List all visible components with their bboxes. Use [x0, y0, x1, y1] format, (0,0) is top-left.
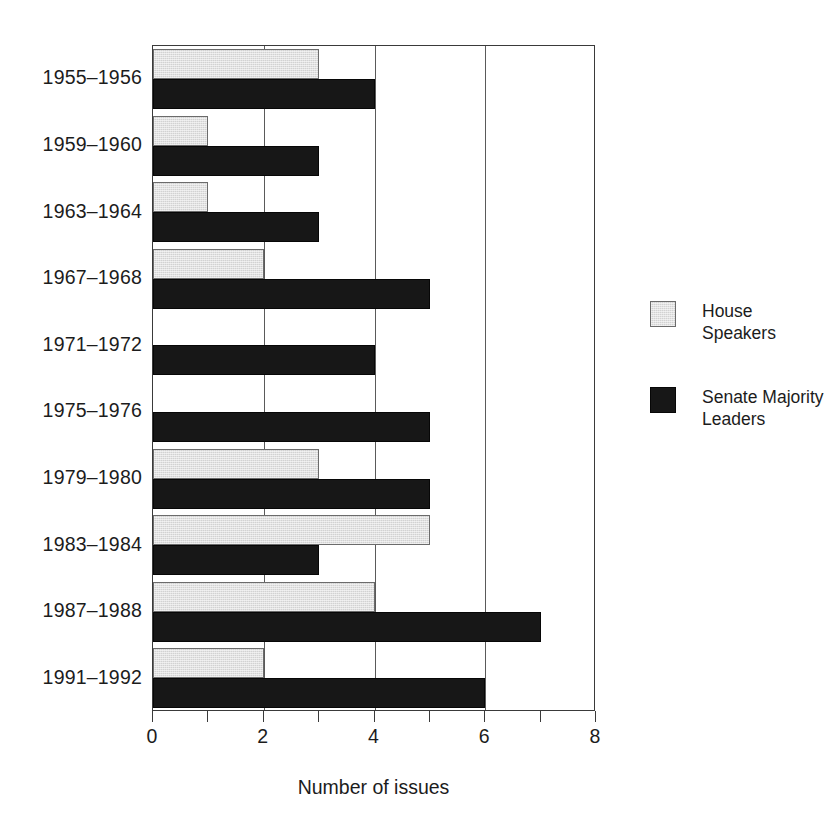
legend-item-house-speakers: House Speakers: [650, 300, 830, 344]
x-axis-tick: [484, 711, 485, 722]
bar-group: [153, 179, 594, 246]
x-axis-tick: [429, 711, 430, 722]
bar-house: [153, 648, 264, 678]
y-axis-label: 1963–1964: [2, 200, 142, 223]
legend-swatch-icon: [650, 301, 676, 327]
bar-house: [153, 515, 430, 545]
x-axis-tick: [595, 711, 596, 722]
legend-swatch-icon: [650, 387, 676, 413]
y-axis-label: 1955–1956: [2, 66, 142, 89]
x-axis-tick-label: 2: [233, 725, 293, 748]
bar-senate: [153, 146, 319, 176]
bar-house: [153, 49, 319, 79]
x-axis-title: Number of issues: [152, 776, 595, 799]
x-axis-tick: [263, 711, 264, 722]
bar-senate: [153, 612, 541, 642]
bar-house: [153, 449, 319, 479]
bar-group: [153, 579, 594, 646]
bar-group: [153, 645, 594, 712]
bar-group: [153, 246, 594, 313]
x-axis-tick: [374, 711, 375, 722]
bar-house: [153, 182, 208, 212]
x-axis-tick: [152, 711, 153, 722]
bar-group: [153, 446, 594, 513]
legend-label: Senate Majority Leaders: [702, 386, 824, 430]
y-axis-label: 1971–1972: [2, 333, 142, 356]
bar-senate: [153, 545, 319, 575]
x-axis-tick-label: 6: [454, 725, 514, 748]
y-axis-labels: 1955–19561959–19601963–19641967–19681971…: [0, 45, 142, 711]
y-axis-label: 1967–1968: [2, 266, 142, 289]
y-axis-label: 1983–1984: [2, 533, 142, 556]
bar-senate: [153, 79, 375, 109]
y-axis-label: 1979–1980: [2, 466, 142, 489]
legend: House SpeakersSenate Majority Leaders: [650, 300, 830, 472]
x-axis-tick-label: 4: [344, 725, 404, 748]
x-axis-tick-label: 0: [122, 725, 182, 748]
bar-senate: [153, 212, 319, 242]
plot-area: [152, 45, 595, 711]
legend-label: House Speakers: [702, 300, 830, 344]
y-axis-label: 1987–1988: [2, 599, 142, 622]
bar-house: [153, 116, 208, 146]
bar-group: [153, 379, 594, 446]
x-axis: 02468: [152, 711, 595, 781]
page-bleed-text: [120, 0, 710, 18]
bar-senate: [153, 345, 375, 375]
x-axis-tick-label: 8: [565, 725, 625, 748]
y-axis-label: 1959–1960: [2, 133, 142, 156]
bar-group: [153, 46, 594, 113]
bar-senate: [153, 412, 430, 442]
bar-house: [153, 582, 375, 612]
y-axis-label: 1991–1992: [2, 666, 142, 689]
bar-group: [153, 113, 594, 180]
bar-chart-figure: 1955–19561959–19601963–19641967–19681971…: [0, 0, 833, 840]
x-axis-tick: [207, 711, 208, 722]
legend-item-senate-majority-leaders: Senate Majority Leaders: [650, 386, 830, 430]
bar-group: [153, 312, 594, 379]
bar-senate: [153, 479, 430, 509]
x-axis-tick: [318, 711, 319, 722]
bar-senate: [153, 678, 485, 708]
bar-group: [153, 512, 594, 579]
x-axis-tick: [540, 711, 541, 722]
bar-senate: [153, 279, 430, 309]
y-axis-label: 1975–1976: [2, 399, 142, 422]
bar-house: [153, 249, 264, 279]
